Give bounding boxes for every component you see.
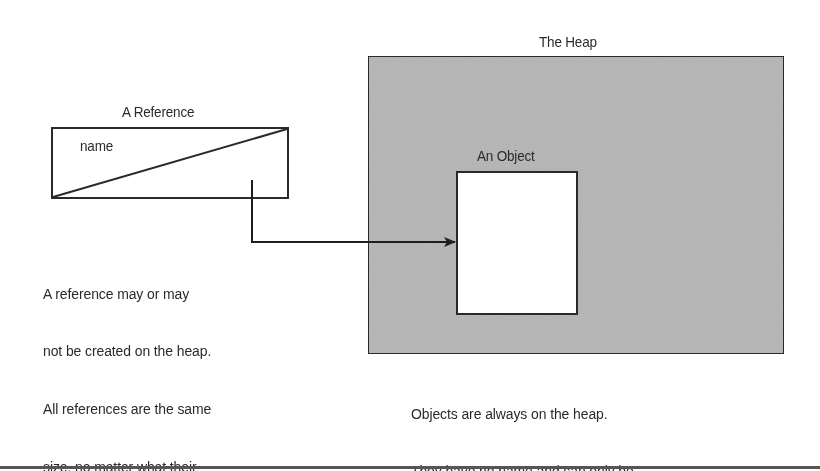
reference-caption: A reference may or may not be created on… — [43, 245, 230, 471]
reference-title: A Reference — [122, 103, 194, 120]
object-box — [457, 172, 577, 314]
reference-caption-line: not be created on the heap. — [43, 341, 230, 360]
heap-title: The Heap — [539, 33, 597, 50]
reference-caption-line: A reference may or may — [43, 284, 230, 303]
reference-caption-line: All references are the same — [43, 399, 230, 418]
bottom-divider — [0, 466, 820, 469]
reference-field-label: name — [80, 137, 113, 154]
object-title: An Object — [477, 147, 535, 164]
heap-caption-line: Objects are always on the heap. — [411, 404, 662, 423]
heap-caption: Objects are always on the heap. They hav… — [411, 365, 662, 471]
